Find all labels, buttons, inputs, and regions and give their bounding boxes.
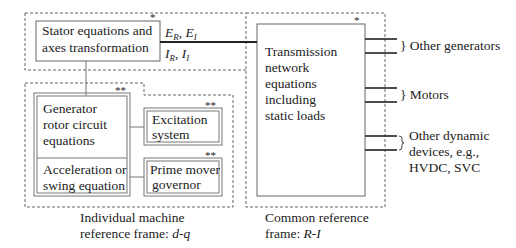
motors-label: } Motors (400, 87, 449, 103)
transmission-label-line-5: static loads (265, 108, 325, 124)
generator-label-line-3: equations (43, 133, 95, 149)
voltage-e-i-sub: I (194, 32, 197, 42)
other-generators-label: } Other generators (400, 38, 500, 54)
common-frame-axes: R-I (304, 226, 321, 241)
common-frame-caption-line-2: frame: R-I (265, 226, 321, 242)
voltage-signal-label: ER, EI (165, 25, 197, 45)
generator-marker: ** (115, 82, 126, 98)
individual-frame-axes: d-q (172, 226, 190, 241)
transmission-label-line-1: Transmission (265, 44, 337, 60)
other-devices-label-line-2: devices, e.g., (409, 144, 479, 160)
governor-marker: ** (205, 147, 216, 163)
other-devices-label-line-1: Other dynamic (409, 128, 490, 144)
transmission-marker: * (354, 12, 360, 28)
individual-frame-caption-line-1: Individual machine (80, 210, 185, 226)
common-frame-prefix: frame: (265, 226, 304, 241)
transmission-label-line-4: including (265, 92, 316, 108)
other-devices-label-line-3: HVDC, SVC (409, 160, 480, 176)
individual-frame-prefix: reference frame: (80, 226, 172, 241)
transmission-label-line-3: equations (265, 76, 317, 92)
generator-label-line-2: rotor circuit (43, 117, 107, 133)
voltage-sep: , (179, 25, 186, 40)
voltage-e-i: E (186, 25, 194, 40)
swing-label-line-2: swing equation (43, 178, 125, 194)
common-frame-caption-line-1: Common reference (265, 210, 369, 226)
current-i-i-sub: I (186, 53, 189, 63)
governor-label-line-1: Prime mover (150, 162, 220, 178)
other-devices-brace-icon (399, 136, 404, 150)
excitation-label-line-1: Excitation (152, 112, 207, 128)
stator-marker: * (150, 9, 156, 25)
individual-frame-caption-line-2: reference frame: d-q (80, 226, 190, 242)
current-signal-label: IR, II (165, 46, 189, 66)
stator-label-line-2: axes transformation (42, 40, 149, 56)
excitation-marker: ** (205, 97, 216, 113)
generator-label-line-1: Generator (43, 101, 97, 117)
swing-label-line-1: Acceleration or (43, 162, 127, 178)
transmission-label-line-2: network (265, 60, 309, 76)
current-sep: , (175, 46, 182, 61)
excitation-label-line-2: system (152, 127, 190, 143)
voltage-e-r: E (165, 25, 173, 40)
stator-label-line-1: Stator equations and (42, 23, 152, 39)
governor-label-line-2: governor (152, 177, 201, 193)
